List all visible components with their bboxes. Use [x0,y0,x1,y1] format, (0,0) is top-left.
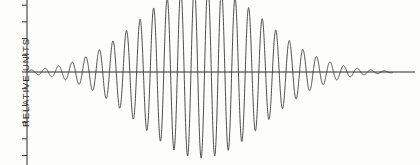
wave-packet-trace [28,0,393,158]
waveform-plot [0,0,420,165]
y-axis-ticks [22,5,27,155]
figure-container: RELATIVE UNITS [0,0,420,165]
